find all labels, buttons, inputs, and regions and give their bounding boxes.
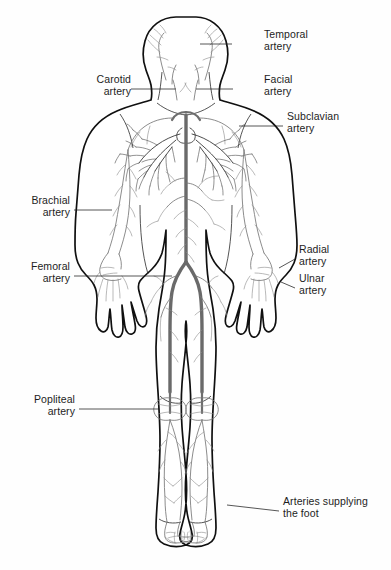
leader-foot bbox=[227, 505, 279, 511]
label-subclavian-artery: Subclavianartery bbox=[287, 110, 339, 134]
leader-ulnar bbox=[281, 282, 295, 288]
label-brachial-artery: Brachialartery bbox=[0, 194, 70, 218]
label-carotid-artery: Carotidartery bbox=[0, 73, 131, 97]
label-radial-artery: Radialartery bbox=[299, 243, 329, 267]
label-temporal-artery: Temporalartery bbox=[264, 28, 308, 52]
label-facial-artery: Facialartery bbox=[264, 73, 293, 97]
label-arteries-supplying-foot: Arteries supplyingthe foot bbox=[283, 495, 368, 519]
label-ulnar-artery: Ulnarartery bbox=[299, 272, 326, 296]
label-femoral-artery: Femoralartery bbox=[0, 260, 70, 284]
label-popliteal-artery: Poplitealartery bbox=[0, 393, 75, 417]
